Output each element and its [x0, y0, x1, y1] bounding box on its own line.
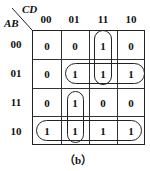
kmap-cell: 0 — [89, 88, 117, 117]
group-loop-row01 — [65, 63, 145, 84]
col-header: 00 — [32, 13, 60, 25]
row-variable-label: AB — [4, 17, 19, 29]
kmap-cell: 0 — [33, 31, 61, 60]
kmap-grid: 0 0 1 0 0 1 1 1 0 1 0 0 1 1 1 1 — [32, 30, 145, 145]
row-header: 01 — [2, 67, 30, 79]
kmap-cell: 0 — [61, 31, 89, 60]
col-header: 01 — [60, 13, 88, 25]
row-header: 11 — [2, 96, 30, 108]
col-header: 10 — [117, 13, 145, 25]
row-header: 10 — [2, 125, 30, 137]
kmap-cell: 0 — [33, 59, 61, 88]
kmap-cell: 0 — [117, 88, 145, 117]
kmap-cell: 0 — [117, 31, 145, 60]
row-header: 00 — [2, 38, 30, 50]
group-loop-row10 — [36, 120, 142, 141]
col-header: 11 — [89, 13, 117, 25]
kmap-cell: 0 — [33, 88, 61, 117]
figure-caption: （b） — [64, 151, 92, 167]
